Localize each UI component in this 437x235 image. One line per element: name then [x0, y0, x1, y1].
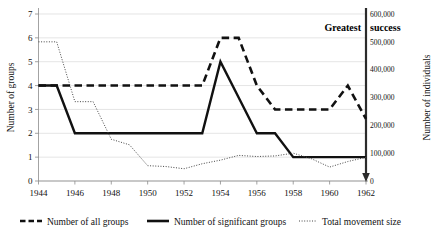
right-axis-tick-label: 0	[370, 177, 374, 186]
right-axis-tick-label: 400,000	[370, 65, 395, 74]
chart-container: 01234567 1944194619481950195219541956195…	[0, 0, 437, 235]
x-axis-tick-label: 1958	[284, 188, 303, 198]
x-axis-tick-label: 1946	[66, 188, 85, 198]
x-axis-tick-label: 1954	[211, 188, 230, 198]
left-axis-tick-label: 1	[28, 152, 33, 162]
right-axis-tick-label: 200,000	[370, 121, 395, 130]
right-axis-tick-label: 500,000	[370, 38, 395, 47]
right-axis-title: Number of individuals	[422, 54, 432, 140]
x-axis-tick-label: 1944	[30, 188, 49, 198]
legend-label-1: Number of significant groups	[174, 217, 286, 227]
legend-label-0: Number of all groups	[47, 217, 129, 227]
legend-group: Number of all groupsNumber of significan…	[20, 217, 401, 227]
x-axis-tick-label: 1956	[248, 188, 267, 198]
line-chart: 01234567 1944194619481950195219541956195…	[0, 0, 437, 235]
left-axis-tick-label: 2	[28, 128, 33, 138]
annotation-greatest: Greatest	[325, 22, 362, 33]
x-axis-tick-label: 1952	[175, 188, 193, 198]
x-axis-tick-label: 1948	[102, 188, 121, 198]
right-axis-tick-label: 600,000	[370, 10, 395, 19]
left-axis-tick-label: 4	[28, 81, 33, 91]
x-axis-tick-label: 1962	[357, 188, 375, 198]
chart-background	[0, 0, 437, 235]
left-axis-tick-label: 3	[28, 105, 33, 115]
x-axis-tick-label: 1960	[321, 188, 340, 198]
x-axis-tick-label: 1950	[139, 188, 158, 198]
legend-label-2: Total movement size	[322, 217, 401, 227]
left-axis-tick-label: 5	[28, 57, 33, 67]
left-axis-tick-label: 0	[28, 176, 33, 186]
right-axis-tick-label: 300,000	[370, 93, 395, 102]
left-axis-tick-label: 6	[28, 33, 33, 43]
left-axis-title: Number of groups	[6, 62, 16, 132]
left-axis-tick-label: 7	[28, 9, 33, 19]
annotation-success: success	[370, 22, 401, 33]
right-axis-tick-label: 100,000	[370, 149, 395, 158]
